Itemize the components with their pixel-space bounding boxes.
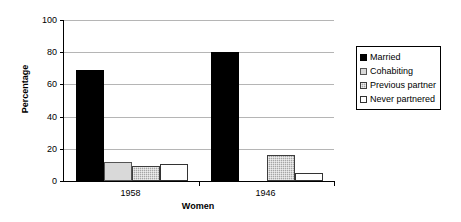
bar-1958-never-partnered (160, 164, 188, 181)
legend-item-married: Married (360, 50, 436, 64)
x-tick-mark (199, 181, 200, 186)
gridline (64, 84, 334, 85)
gridline (64, 117, 334, 118)
x-tick-label-1946: 1946 (255, 188, 275, 198)
y-tick-mark (60, 117, 64, 118)
x-tick-mark (334, 181, 335, 186)
gridline (64, 52, 334, 53)
legend-swatch-icon (360, 54, 367, 61)
legend-label: Previous partner (370, 81, 436, 90)
legend-label: Never partnered (370, 95, 435, 104)
gridline (64, 149, 334, 150)
gridline (64, 20, 334, 21)
legend-item-cohabiting: Cohabiting (360, 64, 436, 78)
y-tick-mark (60, 84, 64, 85)
legend-item-previous-partner: Previous partner (360, 78, 436, 92)
legend-swatch-icon (360, 82, 367, 89)
bar-1946-previous-partner (267, 155, 295, 181)
y-tick-label: 40 (27, 112, 57, 122)
x-tick-label-1958: 1958 (120, 188, 140, 198)
legend: MarriedCohabitingPrevious partnerNever p… (356, 46, 441, 110)
y-tick-label: 80 (27, 47, 57, 57)
legend-swatch-icon (360, 68, 367, 75)
bar-1946-never-partnered (295, 173, 323, 181)
legend-label: Married (370, 53, 401, 62)
legend-label: Cohabiting (370, 67, 413, 76)
x-axis-title: Women (63, 201, 333, 211)
legend-swatch-icon (360, 96, 367, 103)
bar-1958-married (76, 70, 104, 181)
y-tick-label: 60 (27, 79, 57, 89)
y-tick-mark (60, 149, 64, 150)
plot-area: 020406080100 (63, 20, 334, 182)
bar-1958-cohabiting (104, 162, 132, 181)
y-tick-label: 100 (27, 15, 57, 25)
y-tick-mark (60, 181, 64, 182)
bar-1946-married (211, 52, 239, 181)
y-tick-label: 20 (27, 144, 57, 154)
y-tick-mark (60, 52, 64, 53)
legend-item-never-partnered: Never partnered (360, 92, 436, 106)
y-tick-mark (60, 20, 64, 21)
y-tick-label: 0 (27, 176, 57, 186)
bar-1958-previous-partner (132, 166, 160, 181)
bar-chart: Percentage 020406080100 19581946 Women M… (0, 0, 461, 222)
